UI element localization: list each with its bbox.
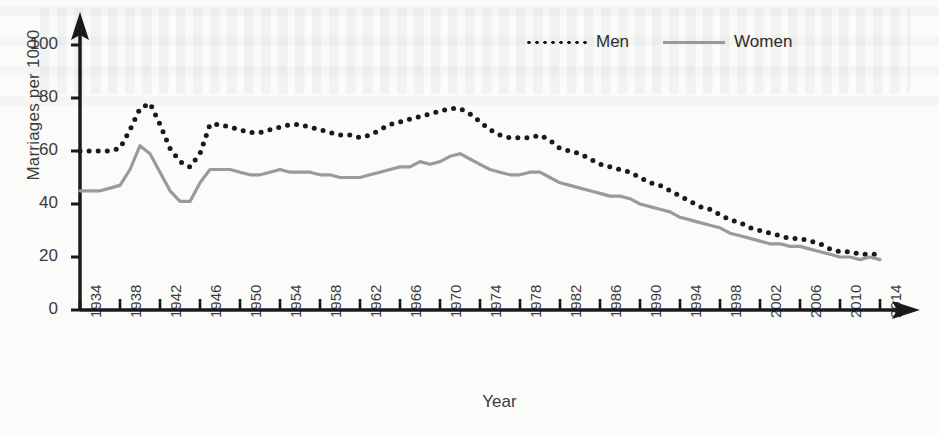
series-men — [78, 103, 877, 257]
data-point — [607, 164, 612, 169]
data-point — [707, 207, 712, 212]
series-women — [80, 146, 880, 260]
data-point — [128, 125, 133, 130]
data-point — [641, 177, 646, 182]
data-point — [542, 135, 547, 140]
legend-entry-women: Women — [663, 32, 792, 52]
data-point — [136, 109, 141, 114]
plot-area — [0, 0, 939, 434]
data-point — [460, 107, 465, 112]
chart-figure: Marriages per 1000 Year 020406080100 193… — [0, 0, 939, 434]
data-point — [232, 126, 237, 131]
data-point — [96, 149, 101, 154]
data-point — [489, 128, 494, 133]
data-point — [267, 127, 272, 132]
data-point — [565, 148, 570, 153]
data-point — [433, 110, 438, 115]
data-point — [157, 121, 162, 126]
data-point — [373, 130, 378, 135]
data-point — [87, 149, 92, 154]
dotted-line-icon — [525, 40, 587, 45]
data-point — [590, 158, 595, 163]
data-point — [78, 149, 83, 154]
data-point — [549, 139, 554, 144]
data-point — [658, 183, 663, 188]
data-point — [599, 162, 604, 167]
data-point — [164, 138, 169, 143]
data-point — [649, 181, 654, 186]
legend-label-women: Women — [734, 32, 792, 52]
data-point — [533, 134, 538, 139]
data-point — [294, 122, 299, 127]
data-point — [574, 150, 579, 155]
data-point — [497, 133, 502, 138]
data-point — [356, 135, 361, 140]
data-point — [766, 230, 771, 235]
data-point — [616, 167, 621, 172]
legend-entry-men: Men — [525, 32, 629, 52]
data-point — [179, 160, 184, 165]
data-point — [250, 130, 255, 135]
data-point — [398, 119, 403, 124]
data-point — [506, 135, 511, 140]
legend: Men Women — [525, 32, 792, 52]
data-point — [149, 104, 154, 109]
data-point — [187, 164, 192, 169]
data-point — [105, 149, 110, 154]
data-point — [285, 123, 290, 128]
data-point — [276, 125, 281, 130]
data-point — [757, 228, 762, 233]
solid-line-icon — [663, 41, 725, 44]
data-point — [241, 128, 246, 133]
data-point — [153, 113, 158, 118]
data-point — [863, 252, 868, 257]
data-point — [329, 130, 334, 135]
data-point — [682, 196, 687, 201]
data-point — [854, 251, 859, 256]
data-point — [223, 123, 228, 128]
data-point — [303, 123, 308, 128]
data-series-layer — [78, 103, 881, 259]
data-point — [120, 141, 125, 146]
data-point — [557, 145, 562, 150]
data-point — [124, 133, 129, 138]
data-point — [173, 153, 178, 158]
x-tick-marks — [80, 299, 880, 310]
data-point — [633, 173, 638, 178]
data-point — [793, 236, 798, 241]
data-point — [625, 169, 630, 174]
data-point — [468, 112, 473, 117]
data-point — [389, 122, 394, 127]
data-point — [416, 115, 421, 120]
data-point — [347, 133, 352, 138]
data-point — [801, 237, 806, 242]
data-point — [827, 246, 832, 251]
data-point — [836, 249, 841, 254]
data-point — [723, 215, 728, 220]
data-point — [582, 154, 587, 159]
data-point — [666, 188, 671, 193]
data-point — [845, 249, 850, 254]
data-point — [515, 135, 520, 140]
data-point — [161, 129, 166, 134]
data-point — [381, 125, 386, 130]
data-point — [114, 147, 119, 152]
legend-label-men: Men — [596, 32, 629, 52]
data-point — [732, 219, 737, 224]
data-point — [740, 222, 745, 227]
data-point — [690, 200, 695, 205]
data-point — [204, 133, 209, 138]
data-point — [365, 133, 370, 138]
data-point — [810, 239, 815, 244]
data-point — [475, 117, 480, 122]
data-point — [132, 117, 137, 122]
data-point — [198, 150, 203, 155]
data-point — [312, 126, 317, 131]
data-point — [442, 108, 447, 113]
data-point — [482, 123, 487, 128]
data-point — [168, 146, 173, 151]
data-point — [674, 192, 679, 197]
data-point — [214, 122, 219, 127]
data-point — [201, 141, 206, 146]
data-point — [748, 226, 753, 231]
